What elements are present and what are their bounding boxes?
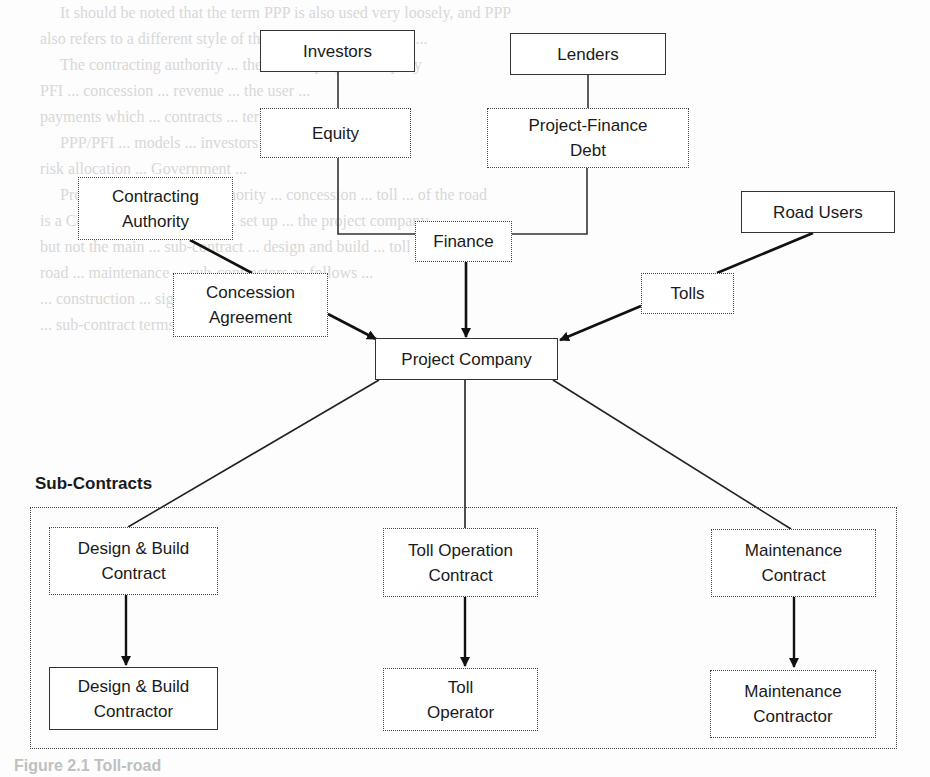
toll-operator-label: Toll Operator — [420, 675, 501, 725]
contracting-authority-node: Contracting Authority — [78, 177, 233, 240]
road-users-label: Road Users — [773, 200, 863, 225]
finance-label: Finance — [433, 229, 493, 254]
design-build-contract-label: Design & Build Contract — [62, 536, 205, 586]
toll-operation-contract-node: Toll Operation Contract — [383, 528, 538, 597]
finance-node: Finance — [415, 221, 512, 262]
concession-agreement-node: Concession Agreement — [173, 273, 328, 337]
toll-operation-contract-label: Toll Operation Contract — [392, 538, 529, 588]
project-finance-debt-node: Project-Finance Debt — [487, 108, 689, 168]
maintenance-contractor-label: Maintenance Contractor — [727, 679, 859, 729]
toll-operator-node: Toll Operator — [383, 668, 538, 731]
equity-node: Equity — [260, 108, 411, 158]
lenders-label: Lenders — [557, 42, 618, 67]
design-build-contract-node: Design & Build Contract — [49, 527, 218, 595]
concession-agreement-label: Concession Agreement — [196, 280, 305, 330]
maintenance-contractor-node: Maintenance Contractor — [710, 670, 876, 738]
lenders-node: Lenders — [510, 33, 666, 75]
design-build-contractor-node: Design & Build Contractor — [49, 667, 218, 730]
design-build-contractor-label: Design & Build Contractor — [62, 674, 205, 724]
tolls-label: Tolls — [670, 281, 704, 306]
project-company-label: Project Company — [401, 347, 531, 372]
road-users-node: Road Users — [741, 191, 895, 233]
investors-label: Investors — [303, 39, 372, 64]
investors-node: Investors — [260, 30, 415, 72]
tolls-node: Tolls — [641, 273, 734, 314]
contracting-authority-label: Contracting Authority — [99, 184, 212, 234]
maintenance-contract-node: Maintenance Contract — [711, 529, 876, 597]
maintenance-contract-label: Maintenance Contract — [728, 538, 859, 588]
project-company-node: Project Company — [375, 338, 558, 380]
equity-label: Equity — [312, 121, 359, 146]
project-finance-debt-label: Project-Finance Debt — [518, 113, 658, 163]
sub-contracts-label: Sub-Contracts — [35, 474, 152, 494]
figure-caption: Figure 2.1 Toll-road — [14, 757, 161, 775]
